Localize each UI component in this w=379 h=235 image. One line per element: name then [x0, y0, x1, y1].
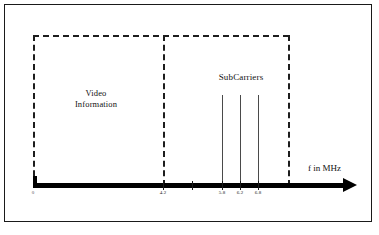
dashed-envelope-divider [163, 35, 165, 186]
video-information-line-2: Information [53, 99, 139, 110]
subcarrier-line-5-8 [222, 95, 223, 186]
tick-label-origin: 0 [26, 190, 40, 195]
dashed-envelope-left [33, 35, 35, 186]
tick-label-4-2: 4.2 [153, 190, 173, 195]
tick-mark-unlabeled [192, 181, 193, 190]
spectrum-figure: Video Information SubCarriers 0 4.2 5.8 … [0, 0, 379, 235]
tick-label-6-8: 6.8 [248, 190, 268, 195]
tick-mark-6-2 [240, 181, 241, 190]
frequency-axis-line [33, 183, 345, 188]
subcarrier-line-6-8 [258, 95, 259, 186]
tick-mark-5-8 [222, 181, 223, 190]
subcarrier-line-6-2 [240, 95, 241, 186]
axis-arrow-icon [343, 178, 357, 192]
tick-label-6-2: 6.2 [230, 190, 250, 195]
tick-mark-6-8 [258, 181, 259, 190]
tick-label-5-8: 5.8 [212, 190, 232, 195]
tick-mark-4-2 [163, 181, 164, 190]
dashed-envelope-top [33, 35, 289, 37]
axis-title-label: f in MHz [308, 163, 341, 173]
subcarriers-label: SubCarriers [196, 72, 286, 83]
video-information-label: Video Information [53, 88, 139, 109]
video-information-line-1: Video [53, 88, 139, 99]
dashed-envelope-right [288, 35, 290, 186]
axis-origin-stub [33, 176, 37, 188]
